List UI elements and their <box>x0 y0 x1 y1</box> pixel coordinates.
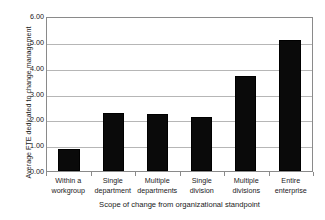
y-axis-tick-label: 2.00 <box>26 116 44 124</box>
bar-slot <box>135 18 179 171</box>
bar <box>191 117 212 171</box>
bar <box>279 40 300 171</box>
bar <box>235 76 256 171</box>
x-axis-tick-label-line: Multiple <box>225 176 268 186</box>
x-axis-tick-label: Multipledepartments <box>135 176 180 198</box>
x-axis-tick-label: Multipledivisions <box>224 176 269 198</box>
y-axis-tick-label: 3.00 <box>26 91 44 99</box>
y-axis-tick-label: 0.00 <box>26 168 44 176</box>
x-axis-tick-label-line: departments <box>136 186 179 196</box>
x-axis-tick-label-line: division <box>181 186 224 196</box>
x-axis-tick-label-line: workgroup <box>47 186 90 196</box>
x-axis-tick-label-line: Entire <box>270 176 313 186</box>
x-axis-tick-label-line: enterprise <box>270 186 313 196</box>
bar-slot <box>224 18 268 171</box>
x-axis-tick-label-line: Multiple <box>136 176 179 186</box>
bar <box>58 149 79 171</box>
x-axis-tick-label-line: Single <box>92 176 135 186</box>
bar <box>103 113 124 171</box>
x-axis-tick-label-line: department <box>92 186 135 196</box>
x-axis-title: Scope of change from organizational stan… <box>46 200 313 210</box>
x-axis-tick-label-line: Within a <box>47 176 90 186</box>
y-axis-tick-labels: 0.001.002.003.004.005.006.00 <box>26 17 44 172</box>
bar-slot <box>180 18 224 171</box>
x-axis-tick-mark <box>313 172 314 176</box>
x-axis-tick-label: Entireenterprise <box>269 176 314 198</box>
plot-area <box>46 17 313 172</box>
x-axis-tick-label: Singledivision <box>180 176 225 198</box>
bar-chart-figure: Average FTE dedicated to change manageme… <box>0 0 325 220</box>
bar <box>147 114 168 171</box>
bar-slot <box>91 18 135 171</box>
bars-layer <box>47 18 312 171</box>
x-axis-tick-label-line: divisions <box>225 186 268 196</box>
y-axis-tick-label: 1.00 <box>26 142 44 150</box>
x-axis-tick-label-line: Single <box>181 176 224 186</box>
y-axis-tick-label: 4.00 <box>26 65 44 73</box>
bar-slot <box>268 18 312 171</box>
y-axis-tick-label: 5.00 <box>26 39 44 47</box>
y-axis-tick-label: 6.00 <box>26 13 44 21</box>
bar-slot <box>47 18 91 171</box>
x-axis-tick-label: Singledepartment <box>91 176 136 198</box>
x-axis-tick-label: Within aworkgroup <box>46 176 91 198</box>
x-axis-tick-labels: Within aworkgroupSingledepartmentMultipl… <box>46 176 313 198</box>
